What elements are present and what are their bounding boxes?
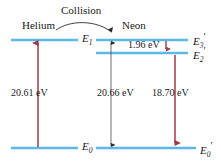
energy-level-diagram: Helium Neon Collision E1 E0 E3′ E2′ E0′ … <box>0 0 221 166</box>
level-label-E0: E0 <box>82 141 92 155</box>
level-label-E2-prime-subscript: 2 <box>200 55 204 64</box>
collision-label: Collision <box>61 5 101 16</box>
level-label-E0-prime-subscript: 0 <box>207 150 211 159</box>
atom-label-helium: Helium <box>22 20 55 31</box>
level-label-E1-symbol: E <box>82 32 89 44</box>
energy-label-18-70eV: 18.70 eV <box>152 88 189 98</box>
level-label-E2-prime-mark: ′ <box>203 45 205 56</box>
atom-label-neon: Neon <box>122 20 146 31</box>
energy-label-1-96eV: 1.96 eV <box>128 40 160 50</box>
level-label-E0-prime-mark: ′ <box>210 140 212 151</box>
collision-arrow <box>56 23 110 31</box>
energy-label-20-66eV: 20.66 eV <box>97 88 134 98</box>
level-label-E1-subscript: 1 <box>89 38 93 47</box>
energy-label-20-61eV: 20.61 eV <box>11 88 48 98</box>
level-label-E3-prime-symbol: E <box>193 35 200 47</box>
level-label-E2-prime-symbol: E <box>193 49 200 61</box>
level-label-E0-prime: E0′ <box>200 141 213 158</box>
level-label-E0-subscript: 0 <box>89 146 93 155</box>
level-label-E0-prime-symbol: E <box>200 144 207 156</box>
level-label-E3-prime-mark: ′ <box>203 31 205 42</box>
level-label-E0-symbol: E <box>82 140 89 152</box>
level-label-E1: E1 <box>82 33 92 47</box>
level-label-E2-prime: E2′ <box>193 46 206 63</box>
